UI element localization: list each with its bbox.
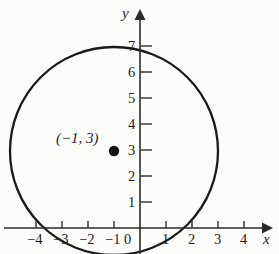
y-tick-label-1: 1 (128, 195, 135, 210)
circle-graph-figure: y x 0 −4 −3 −2 −1 1 2 3 4 1 2 3 4 5 6 7 … (0, 0, 279, 254)
x-tick-label-neg2: −2 (79, 232, 94, 247)
y-axis-arrow-icon (135, 9, 146, 20)
origin-label: 0 (124, 232, 131, 247)
graph-canvas (0, 0, 279, 254)
x-tick-label-neg1: −1 (105, 232, 120, 247)
y-tick-label-4: 4 (128, 117, 135, 132)
center-point-label: (−1, 3) (56, 131, 99, 146)
y-axis-ticks (140, 46, 152, 202)
x-tick-label-2: 2 (188, 232, 195, 247)
x-tick-label-neg4: −4 (27, 232, 42, 247)
x-tick-label-1: 1 (162, 232, 169, 247)
y-tick-label-7: 7 (128, 39, 135, 54)
y-tick-label-6: 6 (128, 65, 135, 80)
y-tick-label-5: 5 (128, 91, 135, 106)
x-tick-label-4: 4 (240, 232, 247, 247)
y-tick-label-3: 3 (128, 143, 135, 158)
center-point-dot (109, 146, 119, 156)
y-axis-label: y (122, 6, 129, 21)
x-tick-label-neg3: −3 (53, 232, 68, 247)
y-tick-label-2: 2 (128, 169, 135, 184)
x-axis-label: x (263, 232, 270, 247)
x-tick-label-3: 3 (214, 232, 221, 247)
